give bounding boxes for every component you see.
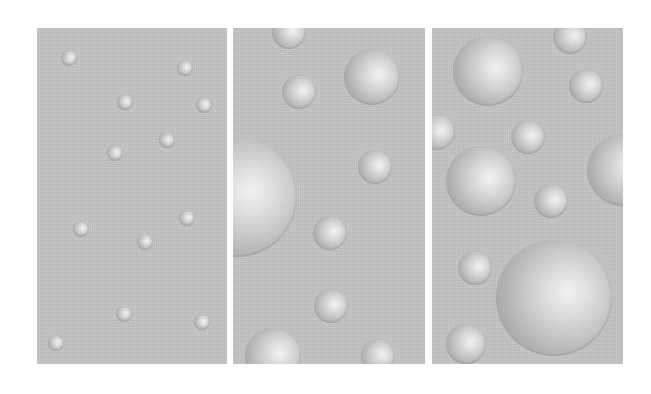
sphere xyxy=(48,335,64,351)
sphere xyxy=(159,132,175,148)
sphere xyxy=(313,216,347,250)
sphere xyxy=(245,328,301,364)
sphere xyxy=(314,289,348,323)
sphere xyxy=(569,69,603,103)
sphere xyxy=(344,49,400,105)
sphere xyxy=(61,50,77,66)
panel-medium-spheres xyxy=(233,28,425,364)
sphere xyxy=(446,324,486,364)
sphere xyxy=(194,314,210,330)
sphere xyxy=(534,184,568,218)
sphere xyxy=(358,150,392,184)
sphere xyxy=(553,28,587,54)
sphere xyxy=(137,234,153,250)
sphere xyxy=(196,97,212,113)
sphere xyxy=(432,114,455,150)
sphere xyxy=(116,306,132,322)
sphere xyxy=(587,134,623,206)
panel-small-spheres xyxy=(37,28,227,364)
sphere xyxy=(496,240,612,356)
sphere xyxy=(361,339,395,364)
sphere xyxy=(511,120,545,154)
sphere xyxy=(453,36,523,106)
sphere xyxy=(272,28,306,49)
sphere xyxy=(233,137,297,257)
sphere xyxy=(177,60,193,76)
sphere xyxy=(179,210,195,226)
sphere xyxy=(458,251,492,285)
sphere xyxy=(446,146,516,216)
sphere xyxy=(107,145,123,161)
sphere xyxy=(73,221,89,237)
sphere xyxy=(282,75,316,109)
sphere xyxy=(117,94,133,110)
panel-large-spheres xyxy=(432,28,623,364)
